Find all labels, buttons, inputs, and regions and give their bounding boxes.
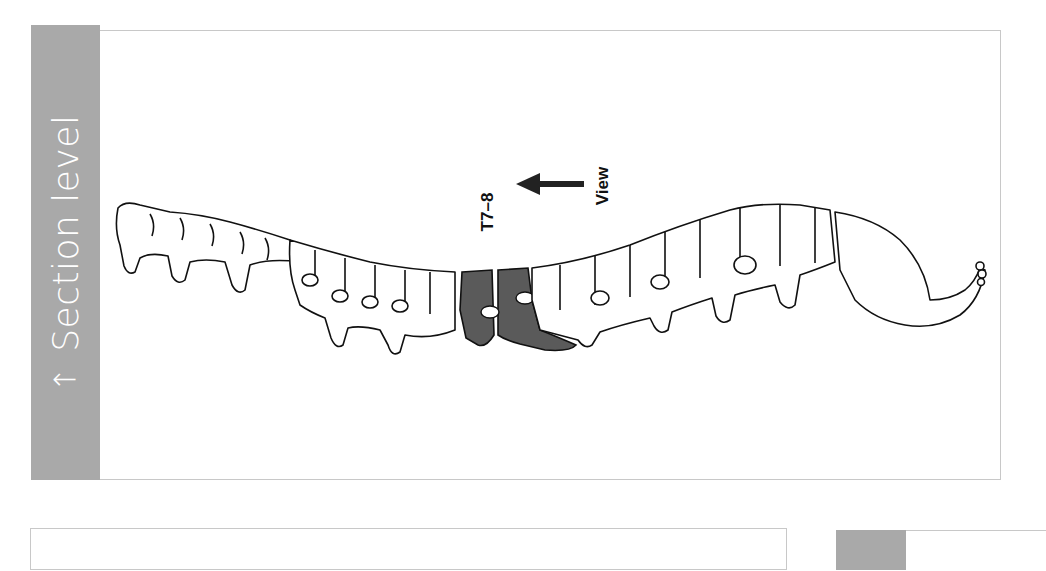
lower-right-box bbox=[906, 530, 1046, 571]
lower-content-box bbox=[30, 528, 787, 570]
lower-section-tab bbox=[836, 530, 906, 570]
left-arrow-icon bbox=[516, 173, 584, 195]
vertebra-level-label: T7–8 bbox=[478, 182, 498, 242]
view-direction-label: View bbox=[593, 156, 613, 216]
